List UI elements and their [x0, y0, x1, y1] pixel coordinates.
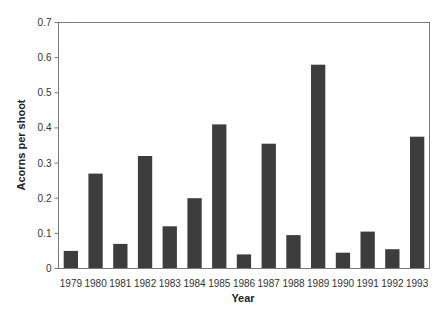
bar-1979 [64, 251, 78, 269]
bar-1984 [187, 198, 201, 268]
bar-1987 [262, 144, 276, 269]
bar-1990 [336, 253, 350, 269]
y-tick-label: 0.6 [38, 52, 52, 63]
bar-chart: 00.10.20.30.40.50.60.7 19791980198119821… [0, 0, 443, 319]
x-tick-label: 1989 [307, 278, 330, 289]
x-tick-label: 1988 [282, 278, 305, 289]
y-tick-label: 0.4 [38, 122, 52, 133]
x-tick-label: 1991 [357, 278, 380, 289]
y-axis-ticks: 00.10.20.30.40.50.60.7 [38, 17, 59, 274]
y-tick-label: 0.2 [38, 193, 52, 204]
bars-group [64, 65, 425, 269]
bar-1981 [113, 244, 127, 269]
y-tick-label: 0.7 [38, 17, 52, 28]
x-tick-label: 1990 [332, 278, 355, 289]
x-axis-label: Year [231, 292, 255, 304]
bar-1989 [311, 65, 325, 269]
x-tick-label: 1987 [258, 278, 281, 289]
x-tick-label: 1981 [109, 278, 132, 289]
bar-1988 [286, 235, 300, 268]
bar-1983 [163, 226, 177, 268]
x-tick-label: 1979 [60, 278, 83, 289]
y-axis-label: Acorns per shoot [15, 99, 27, 190]
x-tick-label: 1982 [134, 278, 157, 289]
bar-1985 [212, 124, 226, 268]
y-tick-label: 0.5 [38, 87, 52, 98]
bar-1986 [237, 254, 251, 268]
x-tick-label: 1986 [233, 278, 256, 289]
bar-1982 [138, 156, 152, 269]
bar-1980 [88, 174, 102, 269]
x-axis-ticks: 1979198019811982198319841985198619871988… [60, 278, 429, 289]
x-tick-label: 1980 [84, 278, 107, 289]
x-tick-label: 1983 [159, 278, 182, 289]
x-tick-label: 1992 [381, 278, 404, 289]
bar-1993 [410, 137, 424, 269]
y-tick-label: 0.1 [38, 228, 52, 239]
x-tick-label: 1993 [406, 278, 429, 289]
bar-1992 [385, 249, 399, 268]
bar-1991 [361, 232, 375, 269]
x-tick-label: 1984 [183, 278, 206, 289]
x-tick-label: 1985 [208, 278, 231, 289]
y-tick-label: 0.3 [38, 158, 52, 169]
y-tick-label: 0 [46, 263, 52, 274]
